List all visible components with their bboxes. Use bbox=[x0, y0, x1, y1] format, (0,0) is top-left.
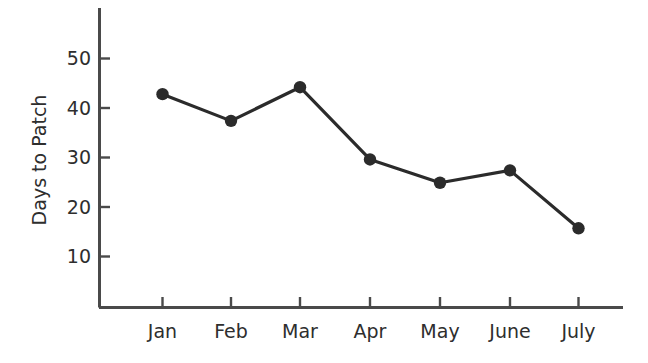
x-tick-label-feb: Feb bbox=[214, 320, 248, 342]
y-tick-label-40: 40 bbox=[67, 97, 91, 119]
data-point-jan bbox=[156, 88, 168, 100]
line-chart: 50 40 30 20 10 Days to Patch Jan Feb Mar… bbox=[0, 0, 648, 363]
x-tick-label-apr: Apr bbox=[354, 320, 387, 342]
y-tick-label-10: 10 bbox=[67, 245, 91, 267]
data-point-may bbox=[434, 177, 446, 189]
x-tick-label-june: June bbox=[488, 320, 530, 342]
data-point-apr bbox=[364, 153, 376, 165]
x-tick-label-jan: Jan bbox=[147, 320, 177, 342]
x-tick-label-july: July bbox=[560, 320, 595, 342]
x-tick-label-mar: Mar bbox=[282, 320, 318, 342]
y-tick-label-20: 20 bbox=[67, 196, 91, 218]
data-point-july bbox=[572, 222, 584, 234]
x-tick-label-may: May bbox=[420, 320, 459, 342]
chart-page: 50 40 30 20 10 Days to Patch Jan Feb Mar… bbox=[0, 0, 648, 363]
y-tick-label-50: 50 bbox=[67, 47, 91, 69]
data-point-mar bbox=[294, 81, 306, 93]
data-point-june bbox=[504, 164, 516, 176]
y-tick-label-30: 30 bbox=[67, 146, 91, 168]
y-axis-title: Days to Patch bbox=[28, 95, 50, 226]
x-axis-tick-labels: Jan Feb Mar Apr May June July bbox=[147, 320, 596, 342]
data-point-feb bbox=[225, 115, 237, 127]
